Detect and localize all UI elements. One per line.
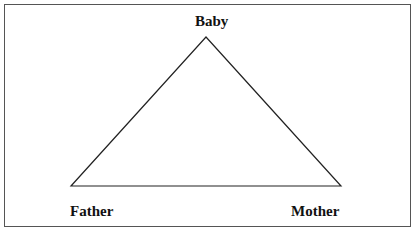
node-label-baby: Baby [195,13,228,30]
triangle-shape [71,37,341,186]
node-label-mother: Mother [291,203,339,220]
triangle-diagram [0,0,417,232]
node-label-father: Father [70,203,113,220]
